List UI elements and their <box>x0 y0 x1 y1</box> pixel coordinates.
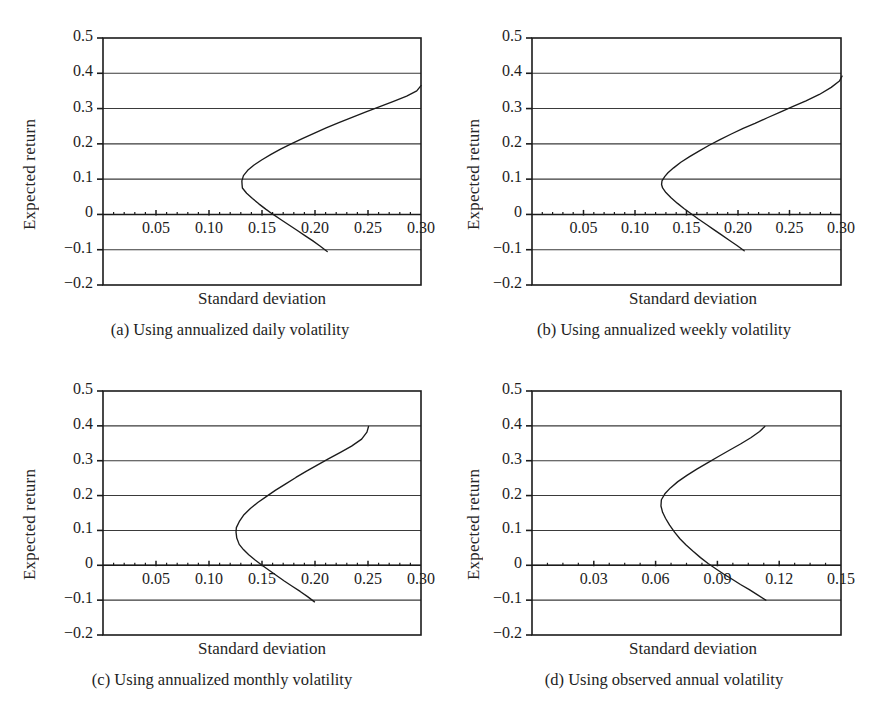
panel-b-y-tick-label: −0.1 <box>474 239 522 257</box>
panel-a-x-axis-label: Standard deviation <box>103 289 421 309</box>
panel-d-x-tick-label: 0.15 <box>819 570 863 588</box>
panel-b-y-tick-label: 0 <box>474 203 522 221</box>
panel-b-x-axis-label: Standard deviation <box>534 289 852 309</box>
plot-frame <box>532 391 841 635</box>
panel-a-y-tick-label: 0.5 <box>45 27 93 45</box>
panel-b-y-tick-label: 0.2 <box>474 133 522 151</box>
panel-b-x-tick-label: 0.15 <box>665 219 709 237</box>
panel-d-x-tick-label: 0.12 <box>757 570 801 588</box>
panel-c-y-tick-label: −0.1 <box>45 589 93 607</box>
figure-canvas: Expected return Standard deviation (a) U… <box>0 0 888 714</box>
panel-d-x-tick-label: 0.09 <box>695 570 739 588</box>
panel-c-y-tick-label: 0 <box>45 554 93 572</box>
panel-c-x-tick-label: 0.15 <box>240 570 284 588</box>
panel-c-y-tick-label: 0.3 <box>45 450 93 468</box>
panel-b-x-tick-label: 0.10 <box>613 219 657 237</box>
panel-c-y-tick-label: 0.5 <box>45 380 93 398</box>
panel-a: Expected return Standard deviation (a) U… <box>0 0 444 348</box>
panel-b-y-tick-label: 0.5 <box>474 27 522 45</box>
panel-b-y-tick-label: 0.3 <box>474 98 522 116</box>
panel-b-y-tick-label: −0.2 <box>474 274 522 292</box>
panel-c-x-tick-label: 0.20 <box>293 570 337 588</box>
panel-d-y-tick-label: 0.2 <box>474 485 522 503</box>
panel-c-y-tick-label: −0.2 <box>45 624 93 642</box>
panel-b: Expected return Standard deviation (b) U… <box>444 0 888 348</box>
panel-a-y-tick-label: 0.1 <box>45 168 93 186</box>
panel-d-y-tick-label: 0 <box>474 554 522 572</box>
panel-d-y-tick-label: −0.2 <box>474 624 522 642</box>
panel-a-x-tick-label: 0.10 <box>187 219 231 237</box>
panel-d-y-tick-label: 0.3 <box>474 450 522 468</box>
panel-d-x-tick-label: 0.03 <box>572 570 616 588</box>
panel-a-x-tick-label: 0.15 <box>240 219 284 237</box>
panel-d: Expected return Standard deviation (d) U… <box>444 352 888 714</box>
panel-a-caption: (a) Using annualized daily volatility <box>30 320 430 340</box>
panel-d-y-tick-label: 0.4 <box>474 415 522 433</box>
panel-c-x-tick-label: 0.05 <box>134 570 178 588</box>
panel-d-y-tick-label: 0.5 <box>474 380 522 398</box>
panel-b-x-tick-label: 0.05 <box>562 219 606 237</box>
panel-c: Expected return Standard deviation (c) U… <box>0 352 444 714</box>
plot-frame <box>103 38 421 285</box>
panel-b-x-tick-label: 0.25 <box>768 219 812 237</box>
panel-c-caption: (c) Using annualized monthly volatility <box>22 670 422 690</box>
panel-d-x-tick-label: 0.06 <box>634 570 678 588</box>
plot-frame <box>532 38 841 285</box>
panel-c-y-tick-label: 0.4 <box>45 415 93 433</box>
panel-b-y-tick-label: 0.1 <box>474 168 522 186</box>
panel-c-x-tick-label: 0.25 <box>346 570 390 588</box>
panel-a-y-tick-label: 0 <box>45 203 93 221</box>
panel-b-x-tick-label: 0.20 <box>716 219 760 237</box>
panel-a-y-tick-label: −0.1 <box>45 239 93 257</box>
panel-d-x-axis-label: Standard deviation <box>534 639 852 659</box>
panel-a-y-tick-label: −0.2 <box>45 274 93 292</box>
panel-c-x-tick-label: 0.30 <box>399 570 443 588</box>
panel-a-x-tick-label: 0.30 <box>399 219 443 237</box>
panel-d-caption: (d) Using observed annual volatility <box>464 670 864 690</box>
panel-a-y-tick-label: 0.3 <box>45 98 93 116</box>
panel-d-y-tick-label: −0.1 <box>474 589 522 607</box>
panel-c-x-tick-label: 0.10 <box>187 570 231 588</box>
panel-a-x-tick-label: 0.20 <box>293 219 337 237</box>
panel-b-caption: (b) Using annualized weekly volatility <box>464 320 864 340</box>
panel-a-x-tick-label: 0.25 <box>346 219 390 237</box>
panel-c-x-axis-label: Standard deviation <box>103 639 421 659</box>
panel-c-y-tick-label: 0.1 <box>45 519 93 537</box>
panel-b-y-tick-label: 0.4 <box>474 62 522 80</box>
panel-a-x-tick-label: 0.05 <box>134 219 178 237</box>
panel-a-y-tick-label: 0.2 <box>45 133 93 151</box>
plot-frame <box>103 391 421 635</box>
panel-b-x-tick-label: 0.30 <box>819 219 863 237</box>
panel-a-y-tick-label: 0.4 <box>45 62 93 80</box>
panel-c-y-tick-label: 0.2 <box>45 485 93 503</box>
panel-d-y-tick-label: 0.1 <box>474 519 522 537</box>
